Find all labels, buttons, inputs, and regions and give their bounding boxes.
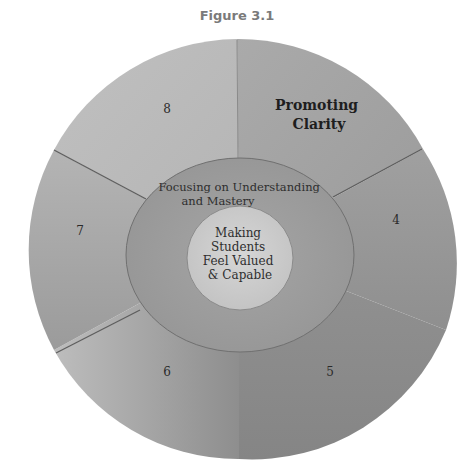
segment-label-8: 8: [163, 102, 171, 116]
segment-label-4: 4: [392, 213, 400, 227]
segment-label-7: 7: [76, 224, 84, 238]
segment-label-6: 6: [163, 365, 171, 379]
segment-label-5: 5: [326, 365, 334, 379]
concentric-diagram: Promoting Clarity 4 5 6 7 8 Focusing on …: [0, 0, 474, 473]
